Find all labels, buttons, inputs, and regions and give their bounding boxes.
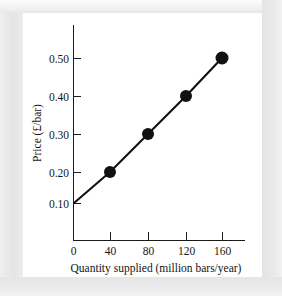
x-tick-label-80: 80 [143, 245, 155, 257]
x-tick-label-0: 0 [71, 245, 77, 257]
data-point-120 [180, 90, 192, 102]
y-tick-label-0-50: 0.50 [49, 53, 69, 65]
data-point-160 [216, 52, 229, 65]
x-tick-label-120: 120 [178, 245, 196, 257]
y-tick-label-0-30: 0.30 [49, 129, 69, 141]
y-tick-label-0-40: 0.40 [49, 91, 69, 103]
y-tick-label-0-20: 0.20 [49, 167, 69, 179]
x-axis-title: Quantity supplied (million bars/year) [71, 262, 242, 275]
x-tick-label-40: 40 [105, 245, 117, 257]
y-tick-label-0-10: 0.10 [49, 198, 69, 210]
y-axis-title: Price (£/bar) [31, 104, 44, 162]
data-point-80 [142, 128, 154, 140]
x-tick-label-160: 160 [214, 245, 232, 257]
figure-page: 0.50 0.40 0.30 0.20 0.10 0 40 80 120 160… [0, 0, 282, 296]
data-point-40 [104, 166, 116, 178]
supply-curve-chart: 0.50 0.40 0.30 0.20 0.10 0 40 80 120 160… [0, 0, 282, 296]
